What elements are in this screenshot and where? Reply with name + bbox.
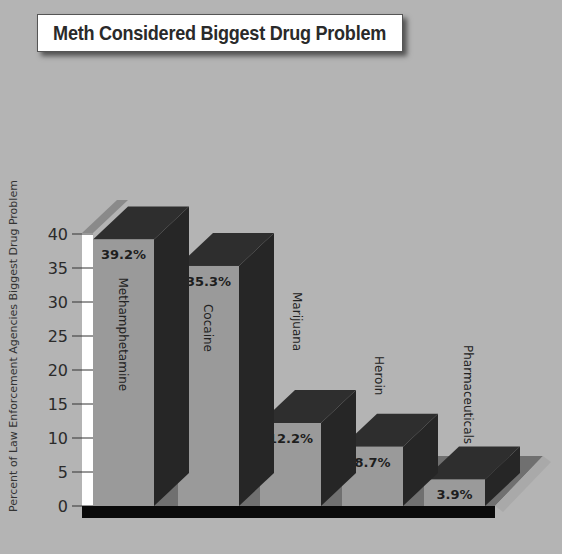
bar-heroin: 8.7%Heroin: [342, 356, 438, 506]
category-label: Cocaine: [201, 304, 215, 352]
category-label: Pharmaceuticals: [461, 345, 475, 444]
y-tick-label: 10: [48, 429, 68, 448]
base-bar: [82, 506, 495, 518]
y-tick-label: 5: [58, 463, 68, 482]
value-label: 39.2%: [101, 247, 146, 262]
y-tick-label: 15: [48, 395, 68, 414]
y-tick-label: 20: [48, 361, 68, 380]
y-tick-label: 0: [58, 497, 68, 516]
bar-chart: 3.9%Pharmaceuticals8.7%Heroin12.2%Mariju…: [0, 0, 562, 554]
bar-methamphetamine: 39.2%Methamphetamine: [93, 206, 189, 506]
category-label: Marijuana: [290, 292, 304, 351]
category-label: Heroin: [372, 356, 386, 395]
y-tick-label: 30: [48, 293, 68, 312]
y-tick-label: 35: [48, 259, 68, 278]
bar-pharmaceuticals: 3.9%Pharmaceuticals: [424, 345, 520, 506]
bars-group: 3.9%Pharmaceuticals8.7%Heroin12.2%Mariju…: [93, 206, 520, 506]
y-axis-label: Percent of Law Enforcement Agencies Bigg…: [7, 180, 20, 512]
category-label: Methamphetamine: [116, 277, 130, 391]
value-label: 35.3%: [186, 274, 231, 289]
y-tick-label: 25: [48, 327, 68, 346]
bar-cocaine: 35.3%Cocaine: [178, 233, 274, 506]
value-label: 3.9%: [436, 487, 472, 502]
value-label: 12.2%: [268, 431, 313, 446]
bar-side: [154, 206, 189, 506]
y-tick-label: 40: [48, 225, 68, 244]
bar-marijuana: 12.2%Marijuana: [260, 292, 356, 506]
bar-side: [239, 233, 274, 506]
value-label: 8.7%: [354, 455, 390, 470]
